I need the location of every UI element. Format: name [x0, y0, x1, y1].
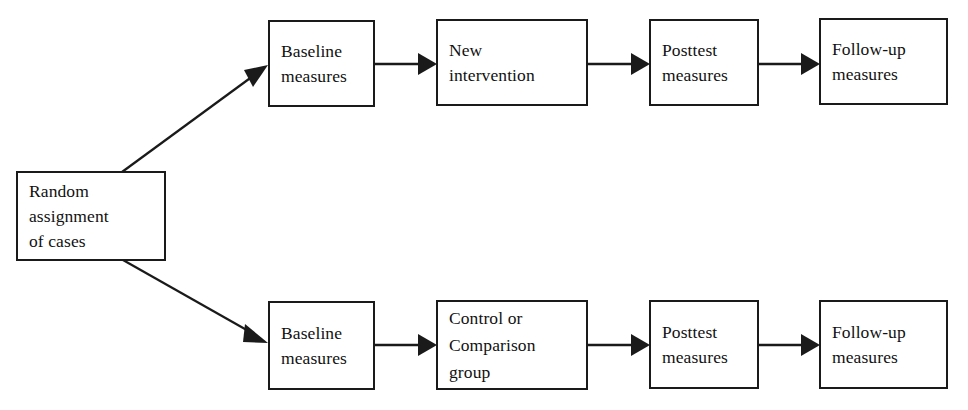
node-control-comparison-group[interactable]: Control or Comparison group: [436, 300, 588, 390]
edge-bottom-baseline-to-control: [375, 334, 437, 356]
node-random-assignment[interactable]: Random assignment of cases: [16, 171, 166, 261]
node-top-followup-measures-label: Follow-up measures: [832, 37, 906, 87]
node-top-posttest-measures[interactable]: Posttest measures: [649, 19, 759, 106]
node-top-followup-measures[interactable]: Follow-up measures: [819, 18, 948, 105]
node-bottom-followup-measures[interactable]: Follow-up measures: [819, 300, 948, 389]
node-new-intervention[interactable]: New intervention: [436, 19, 588, 106]
node-bottom-baseline-measures-label: Baseline measures: [281, 321, 347, 371]
edge-root-to-top-baseline: [122, 65, 268, 172]
edge-top-posttest-to-followup: [759, 53, 820, 75]
node-top-baseline-measures[interactable]: Baseline measures: [268, 20, 375, 107]
node-bottom-posttest-measures[interactable]: Posttest measures: [649, 300, 759, 389]
node-new-intervention-label: New intervention: [449, 38, 535, 88]
edge-bottom-control-to-posttest: [588, 334, 650, 356]
edge-top-treatment-to-posttest: [588, 53, 650, 75]
node-top-baseline-measures-label: Baseline measures: [281, 39, 347, 89]
flow-diagram: Random assignment of cases Baseline meas…: [0, 0, 968, 410]
edge-top-baseline-to-treatment: [375, 53, 437, 75]
edge-bottom-posttest-to-followup: [759, 334, 820, 356]
node-random-assignment-label: Random assignment of cases: [29, 179, 109, 254]
node-control-comparison-group-label: Control or Comparison group: [449, 305, 536, 386]
node-bottom-followup-measures-label: Follow-up measures: [832, 320, 906, 370]
node-top-posttest-measures-label: Posttest measures: [662, 38, 728, 88]
edge-root-to-bottom-baseline: [123, 260, 268, 343]
node-bottom-baseline-measures[interactable]: Baseline measures: [268, 301, 375, 390]
node-bottom-posttest-measures-label: Posttest measures: [662, 320, 728, 370]
